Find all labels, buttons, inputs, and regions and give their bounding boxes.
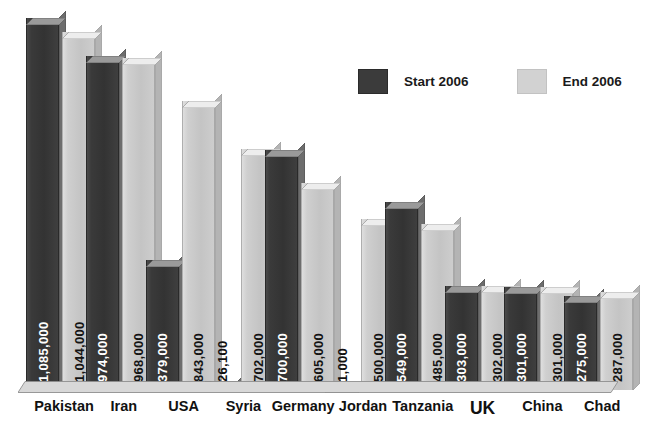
bar-front-face xyxy=(265,150,298,390)
bar-body: 1,085,000 xyxy=(26,18,59,390)
bar-group: 26,100702,000 xyxy=(203,0,263,392)
bar-start-2006: 549,000 xyxy=(385,202,418,390)
chart-legend: Start 2006 End 2006 xyxy=(358,68,622,94)
bar-group: 303,000302,000 xyxy=(443,0,503,392)
bar-top-face xyxy=(26,11,66,18)
bar-body: 303,000 xyxy=(445,286,478,390)
bar-body: 549,000 xyxy=(385,202,418,390)
bar-top-face xyxy=(205,374,245,381)
bar-top-face xyxy=(265,143,305,150)
bar-front-face xyxy=(445,286,478,390)
bar-start-2006: 379,000 xyxy=(146,260,179,390)
bar-top-face xyxy=(564,289,604,296)
bar-top-face xyxy=(445,279,485,286)
bar-group: 1,085,0001,044,000 xyxy=(24,0,84,392)
bar-group: 549,000485,000 xyxy=(383,0,443,392)
bar-front-face xyxy=(26,18,59,390)
bar-group: 1,000500,000 xyxy=(323,0,383,392)
bar-start-2006: 974,000 xyxy=(86,56,119,390)
bar-body: 379,000 xyxy=(146,260,179,390)
bar-start-2006: 301,000 xyxy=(504,287,537,390)
bar-group: 275,000287,000 xyxy=(562,0,622,392)
bar-body: 700,000 xyxy=(265,150,298,390)
light-swatch-icon xyxy=(517,69,547,94)
bar-body: 301,000 xyxy=(504,287,537,390)
bar-start-2006: 275,000 xyxy=(564,296,597,390)
bar-body: 275,000 xyxy=(564,296,597,390)
category-axis: PakistanIranUSASyriaGermanyJordanTanzani… xyxy=(0,398,649,426)
bar-body: 287,000 xyxy=(600,292,633,390)
bar-start-2006: 303,000 xyxy=(445,286,478,390)
legend-label-start-2006: Start 2006 xyxy=(404,74,469,89)
floor-plate-icon xyxy=(18,381,618,393)
bar-start-2006: 1,085,000 xyxy=(26,18,59,390)
bar-front-face xyxy=(504,287,537,390)
bar-value-label: 1,000 xyxy=(335,348,348,382)
bar-top-face xyxy=(146,253,186,260)
bar-front-face xyxy=(564,296,597,390)
bar-group: 379,000843,000 xyxy=(144,0,204,392)
bar-front-face xyxy=(600,292,633,390)
bar-top-face xyxy=(385,195,425,202)
bar-body: 974,000 xyxy=(86,56,119,390)
bar-chart: 1,085,0001,044,000974,000968,000379,0008… xyxy=(0,0,649,442)
bar-group: 700,000605,000 xyxy=(263,0,323,392)
bar-top-face xyxy=(504,280,544,287)
chart-floor xyxy=(18,381,618,393)
bar-start-2006: 700,000 xyxy=(265,150,298,390)
category-label: Chad xyxy=(562,398,642,414)
bar-top-face xyxy=(600,285,640,292)
bar-group: 974,000968,000 xyxy=(84,0,144,392)
plot-area: 1,085,0001,044,000974,000968,000379,0008… xyxy=(0,0,649,392)
bar-side-face xyxy=(633,285,640,390)
legend-item-end-2006: End 2006 xyxy=(517,69,622,94)
bar-front-face xyxy=(146,260,179,390)
legend-item-start-2006: Start 2006 xyxy=(358,69,469,94)
bar-end-2006: 287,000 xyxy=(600,292,633,390)
bar-group: 301,000301,000 xyxy=(502,0,562,392)
bar-top-face xyxy=(86,49,126,56)
legend-label-end-2006: End 2006 xyxy=(563,74,622,89)
dark-swatch-icon xyxy=(358,69,388,94)
bar-front-face xyxy=(385,202,418,390)
bar-front-face xyxy=(86,56,119,390)
